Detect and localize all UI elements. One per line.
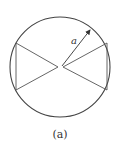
right-triangle bbox=[63, 43, 107, 90]
figure-caption: (a) bbox=[0, 128, 120, 141]
outer-circle bbox=[10, 17, 110, 117]
left-triangle bbox=[16, 43, 58, 90]
radius-label: a bbox=[71, 35, 77, 46]
